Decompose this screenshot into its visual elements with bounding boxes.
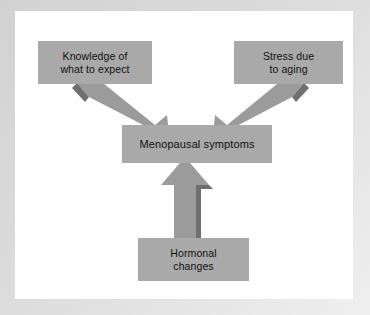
node-hormonal-label: Hormonal changes xyxy=(170,247,216,272)
node-knowledge-of-what-to-expect[interactable]: Knowledge of what to expect xyxy=(38,41,152,84)
diagram-canvas: Knowledge of what to expect Stress due t… xyxy=(15,11,353,299)
arrow-hormonal-to-menopausal xyxy=(161,157,213,243)
node-menopausal-symptoms[interactable]: Menopausal symptoms xyxy=(122,125,272,163)
node-knowledge-label: Knowledge of what to expect xyxy=(60,50,129,75)
node-stress-label: Stress due to aging xyxy=(263,50,314,75)
diagram-screenshot: Knowledge of what to expect Stress due t… xyxy=(0,0,370,315)
node-hormonal-changes[interactable]: Hormonal changes xyxy=(138,238,249,281)
node-stress-due-to-aging[interactable]: Stress due to aging xyxy=(234,41,343,84)
node-menopausal-label: Menopausal symptoms xyxy=(139,138,254,151)
